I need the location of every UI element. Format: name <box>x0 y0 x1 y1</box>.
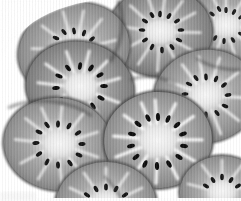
photo-canvas <box>0 0 241 201</box>
film-grain <box>0 0 241 201</box>
kiwi-photograph <box>0 0 241 201</box>
